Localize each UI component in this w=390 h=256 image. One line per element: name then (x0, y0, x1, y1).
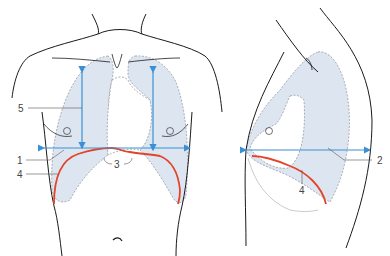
front-view: 5 1 4 3 (12, 14, 222, 256)
navel (113, 238, 122, 241)
label-4-front: 4 (17, 169, 23, 180)
sternal-notch (112, 54, 122, 68)
label-3: 3 (114, 159, 120, 170)
side-view: 2 4 (245, 8, 383, 248)
leader-3-right (124, 158, 132, 164)
leader-3-left (104, 158, 112, 164)
neck-outline (92, 14, 146, 34)
label-1: 1 (17, 155, 23, 166)
label-4-side: 4 (299, 185, 305, 196)
lung-diagram: 5 1 4 3 2 4 (0, 0, 390, 256)
label-2: 2 (377, 155, 383, 166)
label-5: 5 (18, 103, 24, 114)
